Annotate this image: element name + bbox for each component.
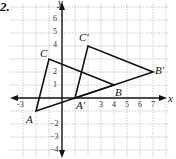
x-tick-label: 4 (112, 100, 116, 109)
y-tick-label: −3 (50, 132, 59, 141)
x-tick-label: 5 (125, 100, 129, 109)
y-tick-label: 1 (53, 80, 57, 89)
vertex-label-a: A (25, 113, 33, 125)
x-axis-label: x (167, 92, 173, 104)
y-tick-label: 4 (53, 40, 57, 49)
y-tick-label: 5 (53, 27, 57, 36)
y-tick-label: 6 (53, 14, 57, 23)
vertex-label-c: C (40, 47, 48, 59)
y-axis-arrow-down-icon (59, 150, 65, 158)
axes (10, 2, 167, 158)
vertex-label-b: B (115, 86, 122, 98)
x-tick-label: 7 (151, 100, 155, 109)
y-tick-label: 2 (53, 67, 57, 76)
x-tick-label: 6 (138, 100, 142, 109)
y-tick-label: −2 (50, 119, 59, 128)
x-tick-label: 3 (99, 100, 103, 109)
coordinate-plane: x y -3 3 4 5 6 7 6 5 4 2 1 −2 −3 −4 A B … (0, 0, 176, 159)
grid (10, 4, 168, 157)
vertex-label-a-prime: A' (75, 99, 86, 111)
vertex-label-c-prime: C' (79, 31, 89, 43)
x-tick-label: -3 (17, 100, 24, 109)
y-axis-label: y (57, 0, 63, 8)
y-tick-label: −4 (50, 145, 59, 154)
vertex-label-b-prime: B' (155, 64, 165, 76)
